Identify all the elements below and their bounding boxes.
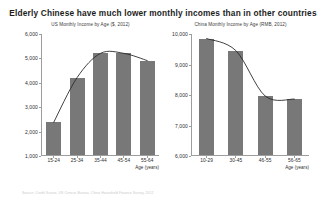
x-tick-label: 10-29 [196,158,218,163]
y-tick-mark [189,126,191,127]
y-tick-label: 4,000 [25,80,38,86]
plot-area-us: 1,0002,0003,0004,0005,0006,000 15-2425-3… [41,34,159,156]
x-axis-labels-us: 15-2425-3435-4445-5455-64 [42,158,159,163]
y-tick-label: 1,000 [25,153,38,159]
chart-panel-china: China Monthly Income by Age (RMB, 2012) … [163,22,318,188]
y-tick-mark [39,83,41,84]
y-tick-mark [39,132,41,133]
chart-subtitle-us: US Monthly Income by Age ($, 2012) [13,22,168,27]
chart-panel-us: US Monthly Income by Age ($, 2012) 1,000… [13,22,168,188]
y-tick-label: 2,000 [25,129,38,135]
source-footnote: Source: Credit Suisse, US Census Bureau,… [22,191,153,195]
x-tick-label: 30-45 [225,158,247,163]
x-tick-label: 45-54 [113,158,135,163]
y-tick-label: 10,000 [172,31,188,37]
y-tick-label: 7,000 [175,123,188,129]
trend-line-path [207,39,295,101]
x-tick-label: 35-44 [89,158,111,163]
y-tick-mark [189,34,191,35]
x-tick-label: 56-65 [283,158,305,163]
y-tick-mark [189,156,191,157]
trend-line-us [42,34,159,155]
y-tick-mark [39,34,41,35]
x-tick-label: 15-24 [43,158,65,163]
chart-subtitle-china: China Monthly Income by Age (RMB, 2012) [163,22,318,27]
y-tick-label: 6,000 [25,31,38,37]
plot-area-china: 6,0007,0008,0009,00010,000 10-2930-4546-… [191,34,309,156]
y-tick-label: 8,000 [175,92,188,98]
slide-canvas: Elderly Chinese have much lower monthly … [0,0,326,210]
y-tick-label: 3,000 [25,104,38,110]
y-tick-label: 5,000 [25,55,38,61]
trend-line-path [54,51,148,122]
x-axis-labels-china: 10-2930-4546-5556-65 [192,158,309,163]
y-tick-label: 9,000 [175,62,188,68]
y-tick-mark [189,95,191,96]
x-axis-caption-china: Age (years) [285,165,309,170]
x-tick-label: 46-55 [254,158,276,163]
y-tick-mark [39,156,41,157]
y-tick-mark [189,65,191,66]
slide-title: Elderly Chinese have much lower monthly … [0,8,326,18]
y-tick-label: 6,000 [175,153,188,159]
x-axis-caption-us: Age (years) [135,165,159,170]
x-tick-label: 25-34 [66,158,88,163]
trend-line-china [192,34,309,155]
y-tick-mark [39,107,41,108]
x-tick-label: 55-64 [136,158,158,163]
y-tick-mark [39,58,41,59]
